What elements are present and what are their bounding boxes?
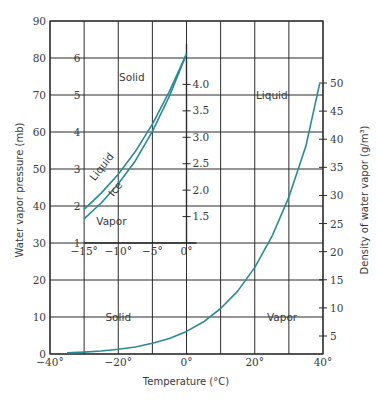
y-tick-label: 60 bbox=[33, 126, 46, 138]
inset-region-label-vapor: Vapor bbox=[96, 215, 127, 227]
inset-y-tick-label: 3 bbox=[74, 163, 81, 175]
y2-tick-label: 35 bbox=[330, 161, 343, 173]
inset-x-tick-label: 0° bbox=[181, 245, 193, 257]
inset-y2-tick-label: 2.5 bbox=[193, 157, 210, 169]
inset-y-tick-label: 5 bbox=[74, 89, 81, 101]
x-tick-label: −40° bbox=[36, 356, 63, 368]
inset-y2-tick-label: 3.0 bbox=[193, 131, 210, 143]
y-tick-label: 20 bbox=[33, 274, 46, 286]
y2-tick-label: 50 bbox=[330, 77, 343, 89]
y2-tick-label: 30 bbox=[330, 189, 343, 201]
inset-y-tick-label: 4 bbox=[74, 126, 81, 138]
x-tick-label: −20° bbox=[105, 356, 132, 368]
inset-region-label-solid: Solid bbox=[119, 71, 145, 83]
y2-tick-label: 15 bbox=[330, 274, 343, 286]
y-tick-label: 90 bbox=[33, 15, 46, 27]
x-axis-label: Temperature (°C) bbox=[142, 376, 229, 387]
y-tick-label: 80 bbox=[33, 52, 46, 64]
y2-tick-label: 5 bbox=[330, 330, 337, 342]
inset-x-tick-label: −5° bbox=[142, 245, 163, 257]
y2-tick-label: 40 bbox=[330, 133, 343, 145]
y2-tick-label: 10 bbox=[330, 302, 343, 314]
x-tick-label: 0° bbox=[181, 356, 193, 368]
region-label-liquid: Liquid bbox=[256, 89, 288, 101]
plot-frame bbox=[50, 21, 327, 354]
vapor-pressure-chart: 1234561.52.02.53.03.54.0−15°−10°−5°0°010… bbox=[0, 0, 376, 401]
region-label-vapor: Vapor bbox=[267, 311, 298, 323]
y-tick-label: 10 bbox=[33, 311, 46, 323]
region-label-solid: Solid bbox=[105, 311, 131, 323]
y-axis-label: Water vapor pressure (mb) bbox=[14, 123, 25, 258]
inset-x-tick-label: −15° bbox=[70, 245, 97, 257]
y2-tick-label: 20 bbox=[330, 246, 343, 258]
inset-y2-tick-label: 2.0 bbox=[193, 184, 210, 196]
y-tick-label: 40 bbox=[33, 200, 46, 212]
inset-y-tick-label: 6 bbox=[74, 52, 81, 64]
y-tick-label: 70 bbox=[33, 89, 46, 101]
y-tick-label: 50 bbox=[33, 163, 46, 175]
inset-y2-tick-label: 4.0 bbox=[193, 78, 210, 90]
y-tick-label: 30 bbox=[33, 237, 46, 249]
inset-x-tick-label: −10° bbox=[105, 245, 132, 257]
inset-y2-tick-label: 3.5 bbox=[193, 104, 210, 116]
inset-y-tick-label: 2 bbox=[74, 200, 81, 212]
x-tick-label: 20° bbox=[245, 356, 264, 368]
inset-y2-tick-label: 1.5 bbox=[193, 210, 210, 222]
y2-axis-label: Density of water vapor (g/m³) bbox=[359, 126, 370, 275]
y2-tick-label: 25 bbox=[330, 218, 343, 230]
x-tick-label: 40° bbox=[314, 356, 333, 368]
curve-label-liquid: Liquid bbox=[87, 150, 116, 182]
y2-tick-label: 45 bbox=[330, 105, 343, 117]
